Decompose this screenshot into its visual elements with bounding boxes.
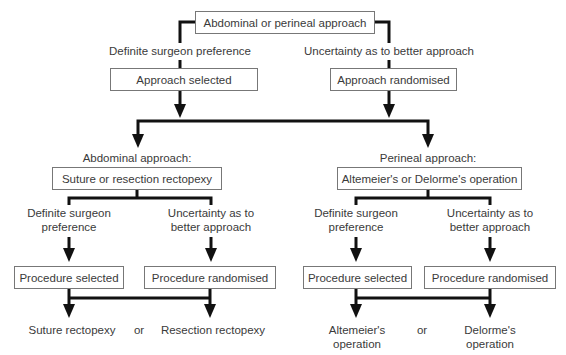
condition-line: better approach: [447, 220, 533, 234]
outcome-line: Delorme's: [464, 323, 515, 337]
approach-randomised-node: Approach randomised: [330, 68, 457, 91]
condition-line: better approach: [168, 220, 254, 234]
abdominal-condition-left: Definite surgeon preference: [27, 206, 111, 234]
outcome-altemeier: Altemeier's operation: [329, 323, 386, 351]
arrow-icon: [204, 304, 216, 318]
arrow-icon: [350, 304, 362, 318]
abdominal-condition-right: Uncertainty as to better approach: [168, 206, 254, 234]
arrow-icon: [132, 134, 144, 148]
arrow-icon: [422, 134, 434, 148]
perineal-procedure-randomised-node: Procedure randomised: [424, 266, 556, 289]
perineal-procedure-node: Altemeier's or Delorme's operation: [337, 167, 522, 190]
arrow-icon: [350, 248, 362, 262]
outcome-line: Altemeier's: [329, 323, 386, 337]
arrow-icon: [63, 248, 75, 262]
arrow-icon: [174, 104, 186, 118]
arrow-icon: [63, 304, 75, 318]
arrow-icon: [205, 248, 217, 262]
perineal-condition-left: Definite surgeon preference: [314, 206, 398, 234]
condition-uncertainty: Uncertainty as to better approach: [304, 44, 474, 58]
outcome-suture-rectopexy: Suture rectopexy: [29, 323, 116, 337]
abdominal-procedure-randomised-node: Procedure randomised: [144, 266, 276, 289]
outcome-resection-rectopexy: Resection rectopexy: [161, 323, 265, 337]
arrow-icon: [484, 304, 496, 318]
arrow-icon: [484, 248, 496, 262]
condition-line: Uncertainty as to: [447, 206, 533, 220]
condition-definite-preference: Definite surgeon preference: [109, 44, 251, 58]
abdominal-procedure-node: Suture or resection rectopexy: [52, 167, 222, 190]
perineal-heading: Perineal approach:: [380, 151, 477, 165]
abdominal-heading: Abdominal approach:: [83, 151, 192, 165]
condition-line: Definite surgeon: [27, 206, 111, 220]
approach-selected-node: Approach selected: [110, 68, 258, 91]
condition-line: Definite surgeon: [314, 206, 398, 220]
outcome-delorme: Delorme's operation: [464, 323, 515, 351]
condition-line: preference: [27, 220, 111, 234]
perineal-condition-right: Uncertainty as to better approach: [447, 206, 533, 234]
arrow-icon: [383, 104, 395, 118]
abdominal-procedure-selected-node: Procedure selected: [14, 266, 124, 289]
root-node: Abdominal or perineal approach: [195, 11, 375, 34]
outcome-line: operation: [464, 337, 515, 351]
perineal-procedure-selected-node: Procedure selected: [303, 266, 412, 289]
outcome-line: operation: [329, 337, 386, 351]
condition-line: Uncertainty as to: [168, 206, 254, 220]
condition-line: preference: [314, 220, 398, 234]
or-label: or: [417, 323, 427, 337]
or-label: or: [134, 323, 144, 337]
